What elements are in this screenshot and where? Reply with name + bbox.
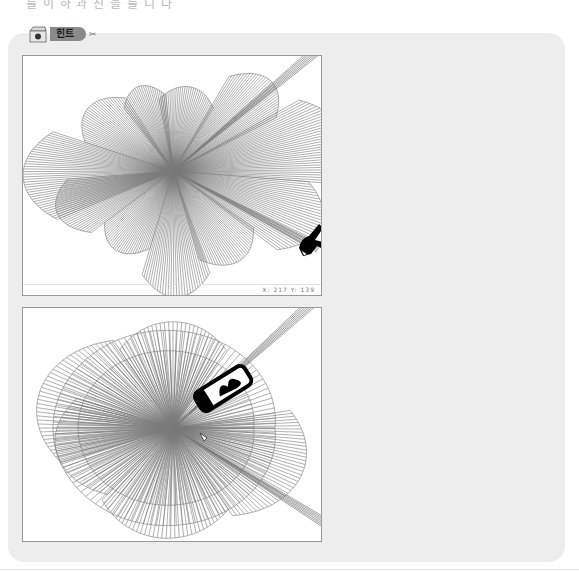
- scissors-icon: ✂: [89, 29, 97, 39]
- bottom-drawing-panel: [22, 307, 322, 542]
- hint-label: 힌트: [50, 27, 86, 41]
- fan-drawing-canvas[interactable]: [23, 56, 322, 296]
- hint-tab: 힌트 ✂: [28, 24, 97, 44]
- status-divider: [23, 284, 321, 285]
- page-divider: [0, 569, 579, 570]
- coordinate-status: X: 217 Y: 139: [262, 286, 315, 293]
- heading-fragment: 를 이 하 과 진 을 를 니 다: [26, 0, 173, 11]
- fan-lines: [23, 74, 322, 297]
- fan-drawing-canvas[interactable]: [23, 308, 322, 542]
- box-icon: [28, 25, 48, 43]
- fan-lines: [37, 322, 307, 539]
- top-drawing-panel: X: 217 Y: 139: [22, 55, 322, 296]
